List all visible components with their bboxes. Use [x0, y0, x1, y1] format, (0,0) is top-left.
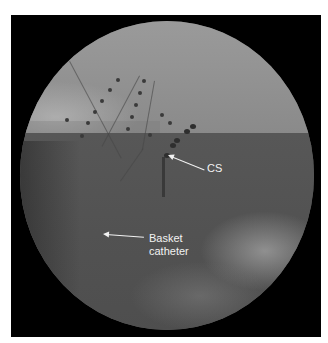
basket-electrode [126, 127, 130, 131]
cs-electrode [174, 138, 180, 143]
cs-electrode [190, 124, 196, 129]
basket-electrode [80, 134, 84, 138]
basket-electrode [93, 110, 97, 114]
basket-electrode [65, 118, 69, 122]
upper-bright-region [20, 21, 314, 133]
left-shadow [20, 141, 80, 330]
cs-electrode [184, 129, 190, 134]
basket-electrode [116, 78, 120, 82]
basket-electrode [100, 99, 104, 103]
basket-label-line2: catheter [149, 245, 189, 257]
basket-electrode [134, 103, 138, 107]
basket-label-line1: Basket [149, 232, 183, 244]
basket-electrode [168, 121, 172, 125]
cs-catheter-shaft [162, 157, 165, 197]
basket-electrode [86, 121, 90, 125]
basket-electrode [108, 88, 112, 92]
bottom-bright-region [130, 261, 270, 330]
cs-label: CS [207, 162, 222, 174]
basket-electrode [130, 115, 134, 119]
basket-electrode [160, 113, 164, 117]
basket-electrode [148, 133, 152, 137]
cs-electrode [170, 143, 176, 148]
basket-electrode [142, 79, 146, 83]
basket-electrode [138, 91, 142, 95]
fluoroscopy-field [20, 21, 314, 330]
